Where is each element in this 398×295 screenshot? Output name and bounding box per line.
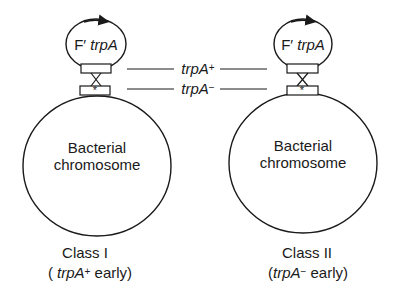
plasmid-prefix: F′ xyxy=(281,36,297,53)
superscript: − xyxy=(300,266,306,277)
rest: early) xyxy=(90,264,132,281)
chromosome-line2: chromosome xyxy=(253,154,353,171)
gene: trpA xyxy=(57,264,85,281)
chromosome-line2: chromosome xyxy=(47,156,147,173)
left-plasmid-label: F′ trpA xyxy=(66,36,126,53)
superscript: + xyxy=(85,266,91,277)
center-lower-label: trpA− xyxy=(176,80,220,97)
plasmid-prefix: F′ xyxy=(74,36,90,53)
lower-gene: trpA xyxy=(181,80,209,97)
left-plasmid-trpA-box xyxy=(81,64,111,73)
left-class-label: Class I xyxy=(40,244,130,261)
lower-sup: − xyxy=(209,82,215,93)
rest: early) xyxy=(306,264,348,281)
plasmid-gene: trpA xyxy=(297,36,325,53)
plasmid-gene: trpA xyxy=(90,36,118,53)
upper-gene: trpA xyxy=(181,60,209,77)
right-plasmid-arrow-icon xyxy=(291,20,311,22)
left-chromosome-label: Bacterial chromosome xyxy=(47,139,147,173)
left-class-description: ( trpA+ early) xyxy=(30,264,150,281)
gene: trpA xyxy=(273,264,301,281)
chromosome-line1: Bacterial xyxy=(253,137,353,154)
right-class-description: (trpA− early) xyxy=(248,264,368,281)
right-class-label: Class II xyxy=(262,244,352,261)
right-plasmid-trpA-box xyxy=(287,64,318,73)
right-plasmid-label: F′ trpA xyxy=(273,36,333,53)
right-marker: * xyxy=(292,85,312,96)
chromosome-line1: Bacterial xyxy=(47,139,147,156)
left-plasmid-arrow-icon xyxy=(84,20,104,22)
right-chromosome-label: Bacterial chromosome xyxy=(253,137,353,171)
left-marker: * xyxy=(85,85,105,96)
paren-open: ( xyxy=(48,264,57,281)
center-upper-label: trpA+ xyxy=(176,60,220,77)
upper-sup: + xyxy=(209,62,215,73)
